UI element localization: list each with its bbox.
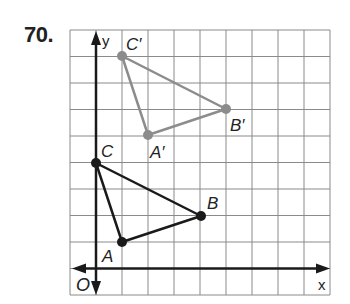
origin-label: O bbox=[76, 275, 90, 295]
vertex-a bbox=[117, 237, 127, 247]
x-axis-arrow-right-icon bbox=[316, 264, 330, 274]
y-axis-arrow-down-icon bbox=[91, 281, 101, 295]
x-axis-label: x bbox=[318, 276, 326, 293]
label-b: B bbox=[207, 194, 218, 213]
x-axis-arrow-left-icon bbox=[72, 264, 86, 274]
label-a-prime: A′ bbox=[149, 143, 165, 162]
y-axis-label: y bbox=[102, 32, 110, 49]
label-a: A bbox=[101, 247, 113, 266]
vertex-b-prime bbox=[221, 104, 231, 114]
label-c-prime: C′ bbox=[126, 35, 142, 54]
coordinate-plane: y x O C′ B′ A′ C B A bbox=[0, 0, 350, 304]
label-c: C bbox=[101, 142, 114, 161]
vertex-c bbox=[91, 158, 101, 168]
vertex-b bbox=[196, 211, 206, 221]
label-b-prime: B′ bbox=[230, 116, 245, 135]
y-axis-arrow-up-icon bbox=[91, 31, 101, 45]
vertex-a-prime bbox=[143, 130, 153, 140]
